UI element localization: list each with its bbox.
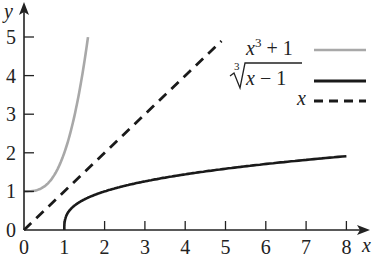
function-plot: 012345678 012345 y x x3 + 1 3 x − 1 x [0,0,382,278]
x-ticks: 012345678 [19,221,351,258]
y-tick-label: 0 [6,219,16,241]
line-identity [24,41,222,230]
legend-item-cube-root: 3 x − 1 [230,60,366,89]
legend-item-identity: x [296,87,366,109]
curve-cube-root [64,156,346,230]
y-ticks: 012345 [6,26,34,241]
legend-label-cube-root: x − 1 [245,67,286,89]
legend-label-identity: x [296,87,306,109]
x-tick-label: 5 [221,236,231,258]
x-tick-label: 2 [100,236,110,258]
y-axis-label: y [2,0,13,23]
legend-item-cubic: x3 + 1 [245,35,366,59]
x-tick-label: 1 [59,236,69,258]
x-tick-label: 6 [261,236,271,258]
plot-curves [24,37,346,230]
x-axis-label: x [361,234,371,256]
x-tick-label: 3 [140,236,150,258]
x-tick-label: 8 [341,236,351,258]
y-tick-label: 2 [6,142,16,164]
x-tick-label: 7 [301,236,311,258]
y-tick-label: 1 [6,180,16,202]
legend: x3 + 1 3 x − 1 x [230,35,366,109]
y-tick-label: 4 [6,65,16,87]
legend-label-cubic: x3 + 1 [245,35,293,59]
x-tick-label: 4 [180,236,190,258]
x-tick-label: 0 [19,236,29,258]
legend-radical-index: 3 [234,60,240,72]
y-tick-label: 3 [6,103,16,125]
y-tick-label: 5 [6,26,16,48]
